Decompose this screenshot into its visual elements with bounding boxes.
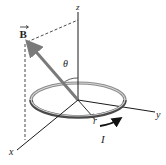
radius-label: r	[93, 115, 97, 126]
dashed-line-top	[27, 20, 78, 42]
current-arrow	[100, 120, 118, 126]
theta-label: θ	[63, 58, 68, 69]
svg-text:B: B	[20, 28, 28, 40]
radius-line	[78, 100, 93, 117]
b-label: B	[20, 26, 29, 41]
z-axis-label: z	[75, 2, 80, 12]
ring-front	[31, 99, 125, 117]
x-axis-label: x	[8, 146, 14, 157]
x-axis	[17, 100, 78, 150]
current-label: I	[100, 133, 106, 145]
y-axis-label: y	[155, 109, 161, 120]
current-loop-diagram: z y x B θ r I	[0, 0, 166, 165]
